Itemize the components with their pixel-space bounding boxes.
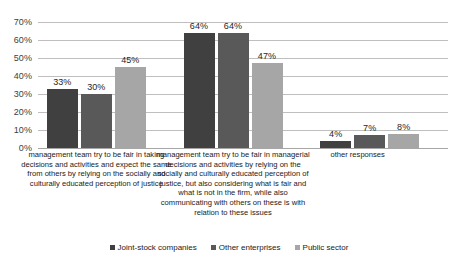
y-axis-tick-label: 50% (14, 53, 32, 63)
bar-value-label: 4% (329, 129, 342, 139)
y-axis-tick-label: 30% (14, 89, 32, 99)
bar[interactable] (47, 89, 78, 148)
y-axis-tick-label: 60% (14, 35, 32, 45)
bar-value-label: 7% (363, 123, 376, 133)
gridline (38, 148, 448, 149)
bar-value-label: 45% (121, 55, 139, 65)
bar[interactable] (354, 135, 385, 148)
y-axis: 0%10%20%30%40%50%60%70% (0, 22, 36, 148)
bar[interactable] (252, 63, 283, 148)
legend-item[interactable]: Public sector (295, 243, 349, 252)
category-label: management team try to be fair in manage… (153, 150, 313, 217)
legend-swatch-icon (211, 245, 216, 250)
bar-value-label: 30% (87, 82, 105, 92)
category-label: other responses (308, 150, 408, 160)
legend-label: Other enterprises (219, 243, 281, 252)
bar[interactable] (115, 67, 146, 148)
bars-layer: 33%30%45%64%64%47%4%7%8% (38, 22, 448, 148)
legend-swatch-icon (295, 245, 300, 250)
bar[interactable] (388, 134, 419, 148)
bar[interactable] (184, 33, 215, 148)
legend-label: Joint-stock companies (118, 243, 197, 252)
legend-item[interactable]: Other enterprises (211, 243, 281, 252)
legend-item[interactable]: Joint-stock companies (110, 243, 197, 252)
bar[interactable] (218, 33, 249, 148)
bar-value-label: 64% (224, 21, 242, 31)
bar-chart: 0%10%20%30%40%50%60%70% 33%30%45%64%64%4… (0, 0, 458, 261)
bar[interactable] (81, 94, 112, 148)
bar-value-label: 64% (190, 21, 208, 31)
y-axis-tick-label: 70% (14, 17, 32, 27)
plot-area: 33%30%45%64%64%47%4%7%8% (38, 22, 448, 148)
y-axis-tick-label: 40% (14, 71, 32, 81)
bar-value-label: 8% (397, 122, 410, 132)
bar[interactable] (320, 141, 351, 148)
bar-value-label: 47% (258, 51, 276, 61)
bar-value-label: 33% (53, 77, 71, 87)
category-axis-labels: management team try to be fair in taking… (38, 150, 448, 230)
y-axis-tick-label: 20% (14, 107, 32, 117)
y-axis-tick-label: 10% (14, 125, 32, 135)
legend-swatch-icon (110, 245, 115, 250)
legend: Joint-stock companiesOther enterprisesPu… (0, 243, 458, 252)
legend-label: Public sector (303, 243, 349, 252)
